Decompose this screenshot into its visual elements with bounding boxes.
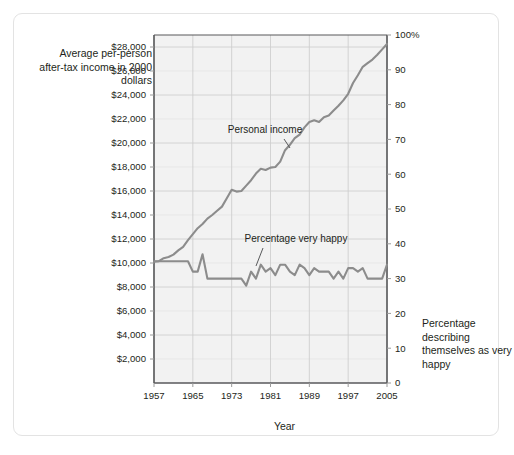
annotation-percentage-very-happy: Percentage very happy	[245, 233, 348, 244]
tick-label-right: 40	[395, 238, 406, 249]
annotation-personal-income: Personal income	[228, 124, 303, 135]
tick-label-right: 0	[395, 377, 400, 388]
tick-label-left: $6,000	[117, 305, 146, 316]
tick-label-x: 1957	[143, 390, 164, 401]
tick-label-left: $24,000	[111, 89, 146, 100]
tick-label-left: $22,000	[111, 113, 146, 124]
tick-label-left: $20,000	[111, 137, 146, 148]
tick-label-x: 1997	[337, 390, 358, 401]
tick-label-left: $4,000	[117, 329, 146, 340]
tick-label-x: 2005	[376, 390, 397, 401]
tick-label-left: $18,000	[111, 161, 146, 172]
tick-label-right: 60	[395, 169, 406, 180]
tick-label-right: 50	[395, 203, 406, 214]
tick-label-x: 1981	[260, 390, 281, 401]
tick-label-x: 1965	[182, 390, 203, 401]
tick-label-x: 1973	[221, 390, 242, 401]
chart-svg: $2,000$4,000$6,000$8,000$10,000$12,000$1…	[0, 0, 514, 455]
tick-label-right: 20	[395, 308, 406, 319]
tick-label-right: 70	[395, 134, 406, 145]
tick-label-right: 80	[395, 99, 406, 110]
tick-label-right: 100%	[395, 29, 420, 40]
tick-label-x: 1989	[299, 390, 320, 401]
tick-label-right: 10	[395, 343, 406, 354]
tick-label-right: 30	[395, 273, 406, 284]
tick-label-left: $14,000	[111, 209, 146, 220]
tick-label-left: $2,000	[117, 353, 146, 364]
plot-area-wrapper: $2,000$4,000$6,000$8,000$10,000$12,000$1…	[0, 0, 514, 455]
tick-label-left: $28,000	[111, 41, 146, 52]
tick-label-left: $12,000	[111, 233, 146, 244]
tick-label-right: 90	[395, 64, 406, 75]
tick-label-left: $26,000	[111, 65, 146, 76]
tick-label-left: $10,000	[111, 257, 146, 268]
tick-label-left: $16,000	[111, 185, 146, 196]
tick-label-left: $8,000	[117, 281, 146, 292]
